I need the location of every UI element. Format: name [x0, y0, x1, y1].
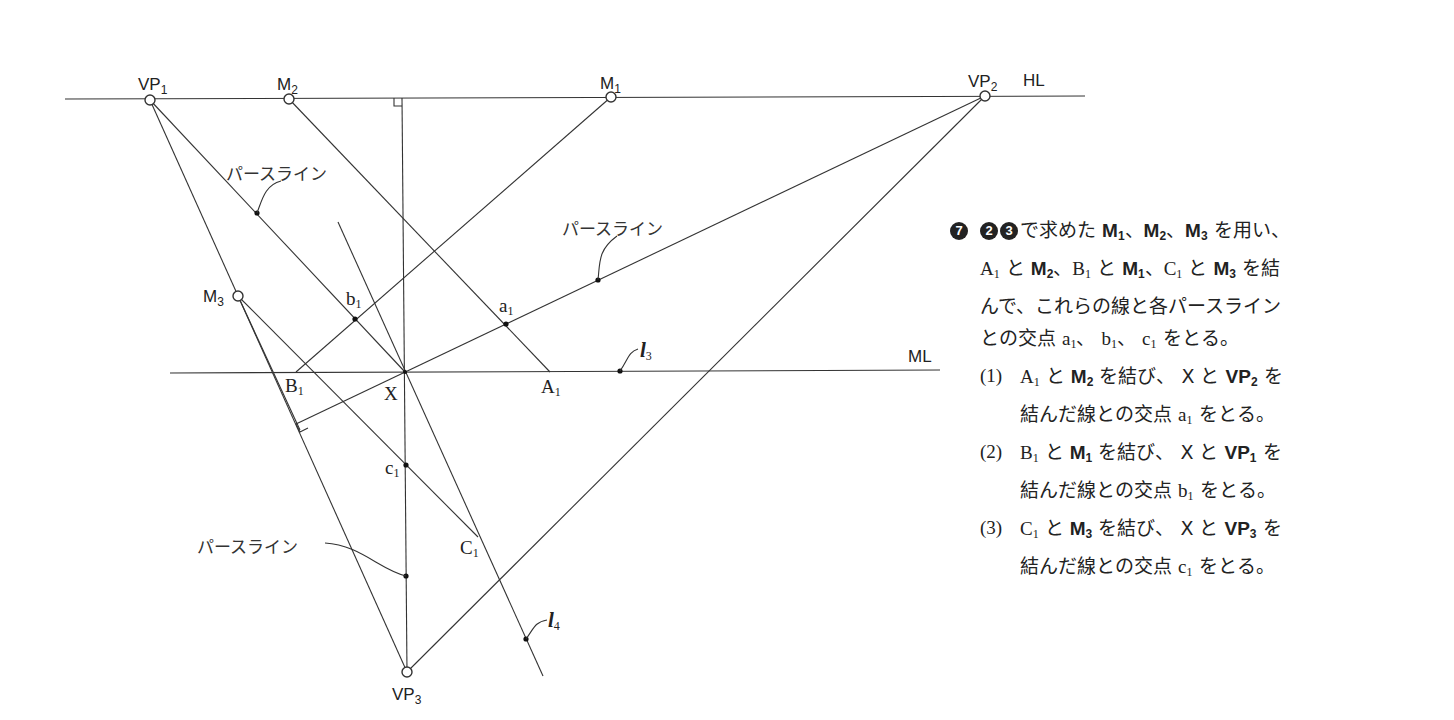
vp3-point	[402, 667, 412, 677]
vp2-to-vp3-line	[407, 96, 985, 672]
hl-label: HL	[1023, 71, 1045, 90]
b1-dot	[352, 316, 357, 321]
C1-label: C1	[460, 537, 479, 560]
vp1-to-vp3-line	[150, 100, 407, 672]
m1-label: M1	[600, 74, 621, 96]
vp1-point	[145, 95, 155, 105]
perspective-line-label-1: パースライン	[226, 164, 327, 184]
m3-label: M3	[203, 287, 224, 309]
vertical-line	[402, 98, 407, 672]
leader-2	[598, 236, 617, 280]
vp3-label: VP3	[392, 685, 422, 707]
m3-to-c1-line	[238, 296, 478, 537]
instruction-panel: 7 23で求めた M1、M2、M3 を用い、 A1 と M2、B1 と M1、C…	[950, 214, 1420, 588]
B1-label: B1	[285, 375, 304, 398]
a1-label: a1	[499, 295, 513, 318]
x-dot	[403, 370, 407, 374]
leader-l3	[620, 349, 638, 371]
sub-step-3: (3) C1 と M3 を結び、 X と VP3 を 結んだ線との交点 c1 を…	[980, 512, 1420, 588]
right-angle-mark-top	[394, 98, 402, 106]
l4-label: l4	[548, 608, 560, 633]
horizon-line	[65, 96, 1085, 99]
sub-step-1: (1) A1 と M2 を結び、 X と VP2 を 結んだ線との交点 a1 を…	[980, 360, 1420, 436]
x-label: X	[384, 383, 398, 404]
sub-step-2: (2) B1 と M1 を結び、 X と VP1 を 結んだ線との交点 b1 を…	[980, 436, 1420, 512]
vp2-point	[980, 91, 990, 101]
ref-badge-3: 3	[1000, 222, 1018, 240]
c1-label: c1	[385, 457, 399, 480]
ref-badge-2: 2	[980, 222, 998, 240]
c1-dot	[403, 462, 408, 467]
perspective-line-label-2: パースライン	[562, 219, 663, 239]
measuring-line	[170, 370, 940, 373]
l3-label: l3	[640, 338, 652, 363]
leader-3	[325, 543, 406, 576]
m3-perpendicular-line	[238, 296, 300, 430]
b1-label: b1	[346, 288, 362, 311]
vp1-to-x-line	[150, 100, 405, 372]
A1-label: A1	[541, 376, 561, 399]
vp1-label: VP1	[138, 75, 168, 97]
step-number-badge: 7	[950, 222, 968, 240]
m2-to-a1-line	[289, 99, 550, 372]
ml-label: ML	[908, 347, 932, 366]
vp2-label: VP2	[968, 72, 998, 94]
a1-dot	[503, 321, 508, 326]
leader-1	[257, 181, 281, 213]
leader-l4	[526, 620, 547, 639]
m2-label: M2	[277, 75, 298, 97]
step-7-text: 23で求めた M1、M2、M3 を用い、 A1 と M2、B1 と M1、C1 …	[980, 214, 1420, 588]
l4-line	[338, 222, 543, 676]
vp2-to-x-line	[296, 96, 985, 424]
step-7: 7 23で求めた M1、M2、M3 を用い、 A1 と M2、B1 と M1、C…	[950, 214, 1420, 588]
perspective-line-label-3: パースライン	[197, 537, 298, 557]
m3-point	[233, 291, 243, 301]
